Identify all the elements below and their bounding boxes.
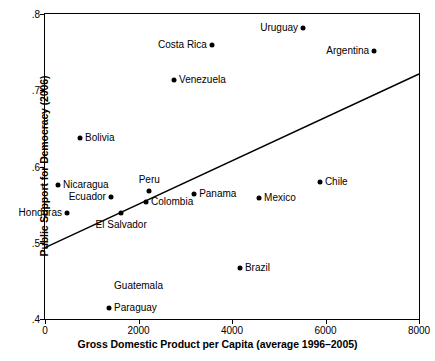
x-tick-label: 4000 [221,325,243,336]
data-point-label: Brazil [245,263,270,273]
data-point[interactable] [301,25,306,30]
data-point-label: El Salvador [96,220,147,230]
data-point-label: Honduras [19,208,62,218]
data-point-label: Nicaragua [63,180,109,190]
data-point-label: Peru [139,175,160,185]
x-tick-mark [139,319,140,324]
data-point[interactable] [108,195,113,200]
data-point[interactable] [372,49,377,54]
x-tick-label: 8000 [408,325,430,336]
data-point[interactable] [237,265,242,270]
data-point-label: Paraguay [114,303,157,313]
y-tick-label: .5 [32,237,40,248]
data-point-label: Venezuela [179,75,226,85]
data-point[interactable] [78,136,83,141]
x-axis-title: Gross Domestic Product per Capita (avera… [0,338,435,350]
y-tick-label: .6 [32,161,40,172]
data-point-label: Ecuador [69,192,106,202]
data-point[interactable] [119,211,124,216]
x-tick-mark [232,319,233,324]
y-tick-mark [40,14,45,15]
x-tick-label: 6000 [314,325,336,336]
data-point[interactable] [56,182,61,187]
y-tick-mark [40,167,45,168]
scatter-chart-figure: Public Support for Democracy (2006) .8.7… [0,0,435,361]
y-tick-label: .7 [32,85,40,96]
data-point-label: Guatemala [114,281,163,291]
data-point-label: Chile [325,177,348,187]
data-point[interactable] [64,211,69,216]
data-point-label: Mexico [264,193,296,203]
data-point-label: Colombia [151,197,193,207]
x-tick-mark [326,319,327,324]
data-point-label: Costa Rica [158,40,207,50]
data-point[interactable] [143,200,148,205]
y-tick-label: .8 [32,9,40,20]
data-point-label: Panama [199,189,236,199]
y-tick-mark [40,90,45,91]
data-point[interactable] [172,78,177,83]
data-point-label: Argentina [326,46,369,56]
data-point[interactable] [317,179,322,184]
data-point[interactable] [257,195,262,200]
data-point[interactable] [107,306,112,311]
x-tick-label: 0 [42,325,48,336]
trend-line [45,14,419,319]
x-tick-mark [419,319,420,324]
data-point-label: Bolivia [85,133,114,143]
plot-area: .8.7.6.5.4 02000400060008000 UruguayCost… [44,13,420,320]
data-point[interactable] [147,188,152,193]
data-point[interactable] [209,43,214,48]
y-tick-mark [40,243,45,244]
y-tick-label: .4 [32,314,40,325]
x-tick-mark [45,319,46,324]
data-point-label: Uruguay [260,23,298,33]
x-tick-label: 2000 [127,325,149,336]
